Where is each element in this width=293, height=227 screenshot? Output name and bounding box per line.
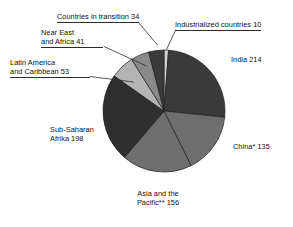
leader-line-countries-in-transition (139, 23, 158, 46)
label-asia-and-pacific: Asia and the Pacific** 156 (123, 190, 193, 208)
label-industrialized-countries: Industrialized countries 10 (175, 21, 261, 31)
label-sub-saharan-line-2: Afrika 198 (50, 135, 110, 144)
label-latin-america-line-2: and Caribbean 53 (10, 68, 90, 77)
pie-slice-india (164, 50, 225, 117)
label-countries-in-transition: Countries in transition 34 (57, 13, 139, 23)
label-near-east-and-africa: Near East and Africa 41 (41, 29, 103, 48)
label-latin-america-and-caribbean: Latin America and Caribbean 53 (10, 59, 90, 78)
pie-slice-group (103, 50, 225, 172)
label-near-east-line-2: and Africa 41 (41, 38, 103, 47)
label-india: India 214 (231, 56, 262, 65)
pie-chart: Countries in transition 34 Industrialize… (0, 0, 293, 227)
leader-line-industrialized-countries (167, 31, 176, 50)
label-china: China* 135 (233, 143, 270, 152)
label-sub-saharan-africa: Sub-Saharan Afrika 198 (50, 126, 110, 144)
label-asia-pacific-line-2: Pacific** 156 (123, 199, 193, 208)
